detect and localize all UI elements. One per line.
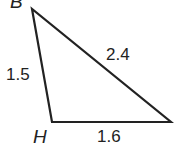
side-label-h-right: 1.6: [97, 128, 121, 145]
side-label-b-right: 2.4: [106, 46, 130, 63]
vertex-label-h: H: [33, 127, 47, 146]
triangle-shape: [32, 9, 171, 122]
side-label-bh: 1.5: [6, 66, 30, 83]
vertex-label-b: B: [10, 0, 23, 11]
